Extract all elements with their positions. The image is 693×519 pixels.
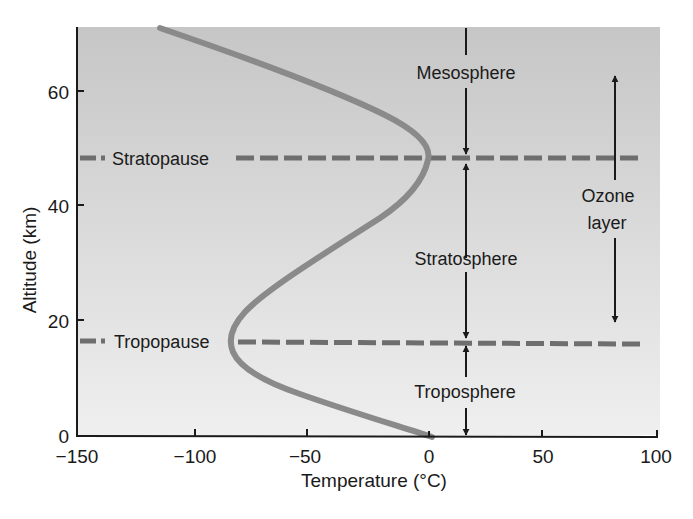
mesosphere-label: Mesosphere	[416, 63, 515, 83]
tropopause-label: Tropopause	[114, 332, 209, 352]
x-tick-label: −150	[56, 446, 99, 467]
x-tick-label: 100	[640, 446, 672, 467]
y-tick-label: 20	[48, 311, 69, 332]
x-tick-label: −100	[174, 446, 217, 467]
plot-area	[77, 27, 660, 435]
x-tick-label: 50	[532, 446, 553, 467]
ozone-label-line1: Ozone	[581, 186, 634, 206]
stratosphere-label: Stratosphere	[414, 249, 517, 269]
stratopause-label: Stratopause	[112, 149, 209, 169]
x-tick-label: 0	[424, 446, 435, 467]
x-axis	[76, 436, 658, 437]
y-tick-label: 0	[58, 426, 69, 447]
atmosphere-temperature-chart: 60 40 20 0 −150 −100 −50 0 50 100 Temper…	[0, 0, 693, 519]
y-tick-label: 60	[48, 82, 69, 103]
x-tick-label: −50	[289, 446, 321, 467]
x-axis-label: Temperature (°C)	[301, 470, 447, 491]
y-tick-label: 40	[48, 196, 69, 217]
ozone-label-line2: layer	[587, 213, 626, 233]
y-axis-label: Altitude (km)	[19, 207, 40, 314]
troposphere-label: Troposphere	[414, 382, 515, 402]
